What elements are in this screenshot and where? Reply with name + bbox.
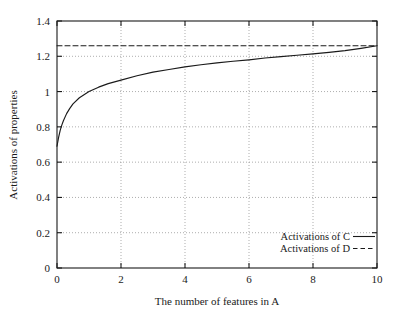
y-tick-label: 1 — [45, 86, 51, 98]
y-axis-title: Activations of properties — [7, 90, 19, 199]
y-tick-label: 0.8 — [36, 121, 50, 133]
y-tick-label: 0.2 — [36, 227, 50, 239]
x-axis-title: The number of features in A — [155, 295, 279, 307]
x-tick-label: 10 — [372, 273, 384, 285]
x-tick-label: 6 — [246, 273, 252, 285]
x-tick-label: 2 — [118, 273, 124, 285]
x-tick-label: 4 — [182, 273, 188, 285]
x-tick-label: 0 — [54, 273, 60, 285]
y-tick-label: 1.2 — [36, 50, 50, 62]
x-tick-label: 8 — [310, 273, 316, 285]
y-tick-label: 0.6 — [36, 156, 50, 168]
x-axis-tick-labels: 0246810 — [54, 273, 383, 285]
y-tick-label: 1.4 — [36, 15, 50, 27]
activations-line-chart: 00.20.40.60.811.21.4 0246810 The number … — [0, 0, 398, 317]
y-tick-label: 0 — [45, 262, 51, 274]
y-tick-label: 0.4 — [36, 191, 50, 203]
y-axis-tick-labels: 00.20.40.60.811.21.4 — [36, 15, 50, 274]
legend-label-1: Activations of D — [280, 243, 350, 254]
legend-label-0: Activations of C — [281, 231, 350, 242]
